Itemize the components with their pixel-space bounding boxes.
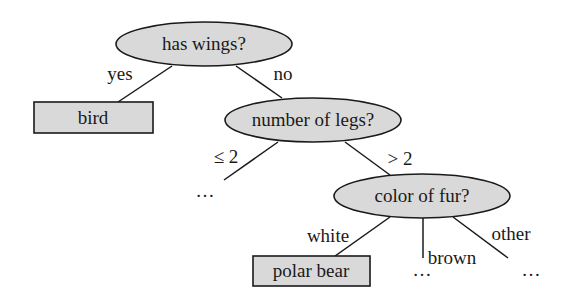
node-has-wings-label: has wings?: [162, 33, 246, 54]
continuation-brown: …: [413, 259, 432, 280]
edge-label-yes: yes: [107, 63, 132, 84]
continuation-other: …: [522, 259, 541, 280]
continuation-le2: …: [196, 180, 215, 201]
edge-label-le2: ≤ 2: [214, 146, 239, 167]
edge-label-white: white: [307, 225, 349, 246]
leaf-bird-label: bird: [78, 107, 109, 128]
edge-label-no: no: [274, 63, 293, 84]
node-color-of-fur-label: color of fur?: [375, 185, 470, 206]
decision-tree-diagram: has wings? bird number of legs? color of…: [0, 0, 569, 297]
leaf-polar-bear-label: polar bear: [273, 260, 350, 281]
edge-label-other: other: [491, 223, 531, 244]
node-number-of-legs-label: number of legs?: [252, 109, 374, 130]
edge-label-brown: brown: [428, 247, 477, 268]
edge-gt2: [345, 142, 390, 175]
edge-label-gt2: > 2: [388, 148, 413, 169]
